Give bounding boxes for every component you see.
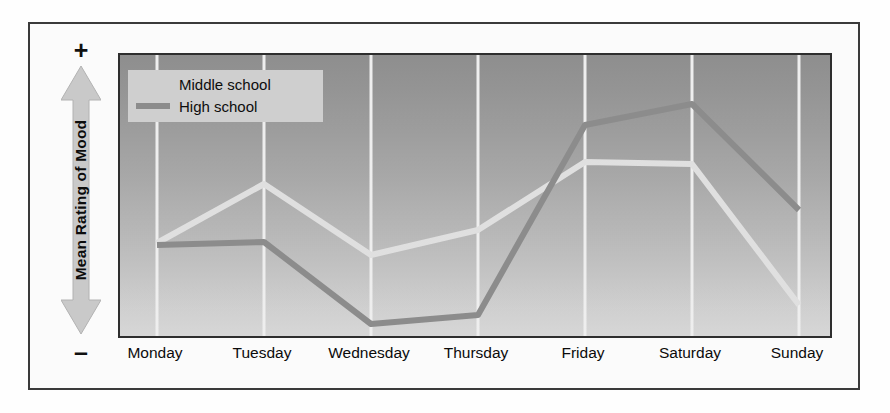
x-axis-label-tuesday: Tuesday [233,344,292,362]
legend-item-high-school: High school [136,95,315,117]
legend-swatch-high-school [136,103,170,109]
x-axis-labels: MondayTuesdayWednesdayThursdayFridaySatu… [118,344,832,370]
x-axis-label-wednesday: Wednesday [328,344,410,362]
chart-legend: Middle school High school [128,70,323,122]
legend-label-high-school: High school [179,98,257,115]
x-axis-label-friday: Friday [561,344,604,362]
chart-figure: + Mean Rating of Mood – Middle school Hi… [0,0,890,413]
y-axis-positive-symbol: + [52,40,110,60]
x-axis-label-monday: Monday [127,344,182,362]
x-axis-label-thursday: Thursday [444,344,509,362]
legend-swatch-middle-school [136,81,170,87]
legend-item-middle-school: Middle school [136,73,315,95]
y-axis-group: + Mean Rating of Mood – [52,40,110,360]
y-axis-title: Mean Rating of Mood [72,120,90,281]
y-axis-negative-symbol: – [52,342,110,362]
x-axis-label-sunday: Sunday [771,344,824,362]
legend-label-middle-school: Middle school [179,76,271,93]
x-axis-label-saturday: Saturday [659,344,721,362]
